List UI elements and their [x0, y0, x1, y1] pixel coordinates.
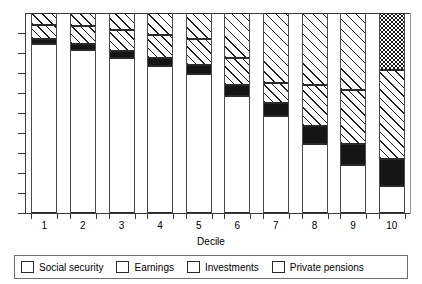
x-axis-tick: [70, 214, 71, 219]
x-axis-tick: [224, 214, 225, 219]
x-axis-tick: [366, 214, 367, 219]
x-axis-tick: [289, 214, 290, 219]
bar-segment-earnings: [71, 44, 95, 50]
stacked-bars: [25, 13, 411, 213]
legend-swatch-cross-hatch-icon: [272, 261, 285, 273]
x-axis-tick: [96, 214, 97, 219]
y-axis-tick: [18, 213, 25, 214]
x-axis-tick: [212, 214, 213, 219]
x-axis-label-3: 3: [102, 220, 142, 232]
bar-segment-social-security: [110, 58, 134, 213]
bar-segment-private-pensions: [187, 13, 211, 39]
y-axis-tick: [18, 33, 25, 34]
bar-segment-private-pensions: [110, 13, 134, 30]
bar-segment-social-security: [187, 74, 211, 213]
bar-segment-investments: [264, 83, 288, 103]
bar-segment-investments: [71, 26, 95, 44]
bar-segment-investments: [380, 70, 404, 159]
x-axis-label-2: 2: [63, 220, 103, 232]
legend-label: Earnings: [134, 262, 173, 273]
bar-decile-2: [70, 13, 96, 213]
x-axis-tick: [328, 214, 329, 219]
bar-segment-investments: [187, 39, 211, 65]
legend-label: Investments: [205, 262, 259, 273]
bar-segment-private-pensions: [341, 13, 365, 90]
x-axis-tick: [250, 214, 251, 219]
bar-decile-1: [31, 13, 57, 213]
bar-decile-8: [302, 13, 328, 213]
x-axis-label-7: 7: [256, 220, 296, 232]
x-axis-label-9: 9: [333, 220, 373, 232]
y-axis-tick: [18, 193, 25, 194]
legend-item-social-security[interactable]: Social security: [21, 261, 103, 273]
x-axis-tick: [263, 214, 264, 219]
x-axis-tick: [173, 214, 174, 219]
bar-segment-social-security: [303, 144, 327, 213]
legend-swatch-diagonal-hatch-icon: [187, 261, 200, 273]
bar-segment-social-security: [264, 116, 288, 213]
legend-item-private-pensions[interactable]: Private pensions: [272, 261, 364, 273]
x-axis-label-8: 8: [295, 220, 335, 232]
bar-segment-private-pensions: [148, 13, 172, 35]
x-axis-label-5: 5: [179, 220, 219, 232]
bar-decile-7: [263, 13, 289, 213]
legend-label: Private pensions: [290, 262, 364, 273]
bar-decile-4: [147, 13, 173, 213]
bar-segment-earnings: [341, 144, 365, 165]
bar-segment-earnings: [32, 39, 56, 44]
bar-segment-investments: [32, 25, 56, 39]
bar-segment-earnings: [303, 126, 327, 144]
y-axis-tick: [18, 93, 25, 94]
legend-swatch-solid-black-icon: [116, 261, 129, 273]
bar-segment-social-security: [71, 50, 95, 213]
bar-segment-investments: [341, 90, 365, 144]
bar-segment-earnings: [380, 159, 404, 186]
bar-segment-private-pensions: [303, 13, 327, 85]
bar-segment-private-pensions: [225, 13, 249, 58]
x-axis-tick: [186, 214, 187, 219]
bar-segment-investments: [110, 30, 134, 51]
y-axis-tick: [18, 173, 25, 174]
bar-decile-9: [340, 13, 366, 213]
y-axis-tick: [18, 73, 25, 74]
x-axis-tick: [340, 214, 341, 219]
bar-segment-earnings: [110, 51, 134, 58]
chart-legend: Social securityEarningsInvestmentsPrivat…: [14, 255, 408, 279]
bar-decile-10: [379, 13, 405, 213]
x-axis-tick: [109, 214, 110, 219]
bar-segment-social-security: [380, 186, 404, 213]
bar-segment-investments: [225, 58, 249, 85]
x-axis-label-1: 1: [24, 220, 64, 232]
y-axis-tick: [18, 53, 25, 54]
legend-swatch-blank-icon: [21, 261, 34, 273]
bar-decile-5: [186, 13, 212, 213]
bar-segment-private-pensions: [32, 13, 56, 25]
legend-item-earnings[interactable]: Earnings: [116, 261, 173, 273]
x-axis-tick: [302, 214, 303, 219]
x-axis-title: Decile: [0, 236, 422, 247]
bar-segment-earnings: [148, 58, 172, 66]
bar-segment-earnings: [187, 65, 211, 74]
x-axis-tick: [379, 214, 380, 219]
bar-segment-earnings: [264, 103, 288, 116]
bar-segment-private-pensions: [264, 13, 288, 83]
bar-segment-private-pensions: [71, 13, 95, 26]
chart-figure: 12345678910 Decile Social securityEarnin…: [0, 0, 422, 284]
legend-item-investments[interactable]: Investments: [187, 261, 259, 273]
x-axis-line: [25, 213, 411, 214]
x-axis-label-6: 6: [217, 220, 257, 232]
bar-decile-3: [109, 13, 135, 213]
y-axis-tick: [18, 153, 25, 154]
x-axis-tick: [57, 214, 58, 219]
x-axis-label-4: 4: [140, 220, 180, 232]
bar-segment-social-security: [341, 165, 365, 213]
bar-segment-social-security: [32, 44, 56, 213]
bar-segment-private-pensions: [380, 13, 404, 70]
x-axis-tick: [135, 214, 136, 219]
x-axis-tick: [405, 214, 406, 219]
y-axis-tick: [18, 113, 25, 114]
bar-decile-6: [224, 13, 250, 213]
bar-segment-earnings: [225, 85, 249, 96]
bar-segment-social-security: [225, 96, 249, 213]
x-axis-tick: [147, 214, 148, 219]
